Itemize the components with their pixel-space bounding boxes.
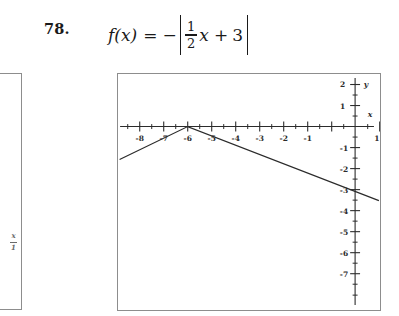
absolute-value-bar-right: [247, 15, 248, 55]
y-axis-tick-labels: 2 1 -1 -2 -3 -4 -5 -6 -7: [340, 80, 348, 278]
y-tick-label: -4: [340, 207, 348, 216]
x-tick-label: -2: [280, 134, 288, 143]
close-paren: ): [131, 25, 138, 45]
adjacent-panel-curve: [0, 74, 21, 309]
x-axis-label: x: [367, 110, 373, 119]
adjacent-graph-panel-cropped: x 1: [0, 73, 22, 310]
y-tick-label: 1: [340, 102, 345, 111]
adjacent-panel-tick-value: 1: [11, 243, 16, 252]
problem-header: 78. f(x) = − 1 2 x + 3: [0, 6, 399, 64]
x-tick-label: 1: [374, 134, 379, 143]
equals-sign: =: [143, 25, 157, 45]
y-tick-label: -7: [340, 270, 348, 279]
fraction-numerator: 1: [185, 20, 197, 34]
x-axis-tick-labels: -8 -7 -6 -5 -4 -3 -2 -1 1: [136, 134, 380, 143]
y-tick-label: -5: [340, 228, 348, 237]
plus-sign: +: [214, 25, 228, 45]
fraction-denominator: 2: [185, 37, 197, 51]
y-tick-label: -2: [340, 165, 348, 174]
x-tick-label: -4: [232, 134, 240, 143]
y-axis-label: y: [363, 80, 369, 89]
x-tick-label: -3: [256, 134, 264, 143]
x-tick-label: -8: [136, 134, 144, 143]
problem-number: 78.: [44, 20, 70, 37]
function-variable: x: [121, 25, 131, 45]
open-paren: (: [114, 25, 121, 45]
negative-sign: −: [162, 25, 176, 45]
x-tick-label: -1: [304, 134, 312, 143]
fraction-variable: x: [199, 25, 209, 45]
absolute-value-body: 1 2 x + 3: [181, 20, 247, 50]
graph-panel: -8 -7 -6 -5 -4 -3 -2 -1 1 2 1 -1 -2 -3 -…: [117, 73, 381, 311]
coordinate-plane: -8 -7 -6 -5 -4 -3 -2 -1 1 2 1 -1 -2 -3 -…: [118, 74, 380, 310]
y-tick-label: -6: [340, 249, 348, 258]
adjacent-panel-axis-label: x 1: [10, 232, 17, 252]
x-tick-label: -6: [184, 134, 192, 143]
constant-term: 3: [232, 25, 243, 45]
y-tick-label: -1: [340, 144, 348, 153]
y-tick-label: 2: [340, 80, 345, 89]
fraction-one-half: 1 2: [185, 20, 197, 50]
equation-expression: f(x) = − 1 2 x + 3: [108, 12, 248, 58]
adjacent-panel-x-label: x: [11, 231, 15, 240]
